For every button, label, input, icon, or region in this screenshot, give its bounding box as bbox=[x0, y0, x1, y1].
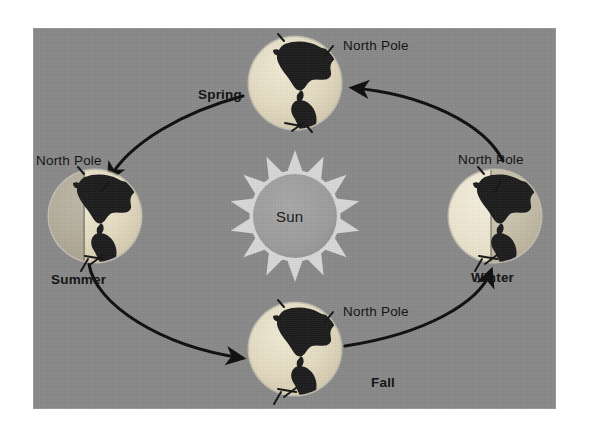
orbit-arrow-summer-to-fall bbox=[89, 264, 242, 358]
sun-label: Sun bbox=[276, 209, 303, 224]
orbit-arrow-spring-to-summer bbox=[109, 96, 243, 179]
diagram-panel: North Pole Spring North Pole Summer Sun … bbox=[33, 28, 556, 409]
orbit-arrow-winter-to-spring bbox=[353, 88, 503, 161]
season-label-fall: Fall bbox=[371, 376, 395, 390]
season-label-winter: Winter bbox=[471, 271, 514, 285]
earth-winter bbox=[445, 167, 547, 272]
season-label-summer: Summer bbox=[51, 273, 106, 287]
figure-root: North Pole Spring North Pole Summer Sun … bbox=[0, 0, 589, 436]
north-pole-label-winter: North Pole bbox=[458, 153, 524, 167]
season-label-spring: Spring bbox=[198, 88, 242, 102]
north-pole-label-fall: North Pole bbox=[343, 305, 409, 319]
earth-spring bbox=[248, 34, 343, 139]
earth-fall bbox=[248, 300, 343, 405]
north-pole-label-spring: North Pole bbox=[343, 39, 409, 53]
north-pole-label-summer: North Pole bbox=[36, 154, 102, 168]
earth-summer bbox=[43, 167, 143, 272]
